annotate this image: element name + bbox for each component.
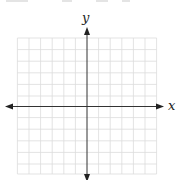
x-axis-label: x: [168, 99, 175, 112]
x-axis-left-arrow-icon: [5, 104, 13, 110]
x-axis-right-arrow-icon: [156, 104, 164, 110]
y-axis-down-arrow-icon: [84, 174, 90, 180]
y-axis-up-arrow-icon: [84, 27, 90, 35]
y-axis-label: y: [82, 11, 89, 24]
coordinate-plane: [0, 0, 176, 180]
